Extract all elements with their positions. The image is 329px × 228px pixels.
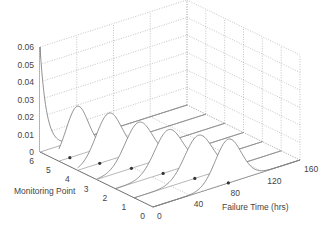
marker-dot [162,172,165,175]
marker-dot [68,156,71,159]
marker-dot [227,181,230,184]
tick-label: 1 [121,202,126,212]
tick-label: 80 [231,188,241,198]
marker-dot [98,162,101,165]
grid-lines [40,0,300,207]
tick-label: 0.02 [17,112,34,122]
tick-label: 2 [103,193,108,203]
marker-dot [130,167,133,170]
tick-label: 0.06 [17,42,34,52]
tick-label: 5 [46,165,51,175]
x-axis-label: Failure Time (hrs) [222,202,289,212]
tick-label: 0 [157,211,162,221]
tick-label: 160 [304,164,318,174]
y-axis-label: Monitoring Point [14,186,76,196]
tick-label: 4 [65,174,70,184]
marker-dot [193,177,196,180]
tick-label: 0.03 [17,95,34,105]
tick-label: 0 [140,211,145,221]
density-curves [40,47,300,207]
chart-3d-waterfall: 00.010.020.030.040.050.06012345604080120… [0,0,329,228]
tick-label: 0.05 [17,60,34,70]
tick-label: 0.04 [17,77,34,87]
tick-label: 0.01 [17,130,34,140]
tick-label: 40 [194,199,204,209]
tick-label: 6 [29,156,34,166]
tick-label: 120 [267,176,281,186]
tick-label: 3 [84,184,89,194]
